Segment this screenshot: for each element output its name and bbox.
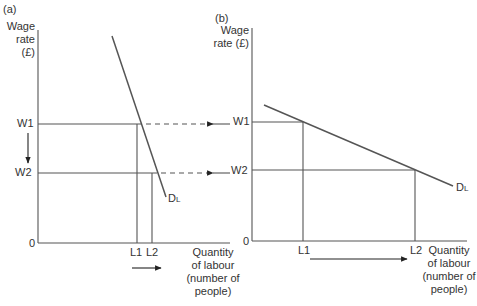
panel-a-graph xyxy=(28,30,230,268)
x-title-line2: of labour xyxy=(419,257,477,270)
y-title-line1: Wage xyxy=(205,24,249,37)
demand-sub: L xyxy=(464,184,468,193)
x-title-line3: (number of xyxy=(183,272,243,285)
panel-b-demand-label: DL xyxy=(456,181,468,195)
panel-b-y-axis-title: Wage rate (£) xyxy=(205,24,249,50)
panel-b-x-axis-title: Quantity of labour (number of people) xyxy=(419,244,477,296)
demand-sub: L xyxy=(176,195,180,204)
x-title-line3: (number of xyxy=(419,270,477,283)
demand-main: D xyxy=(168,192,176,204)
demand-main: D xyxy=(456,181,464,193)
panel-b-w2-label: W2 xyxy=(231,164,248,177)
panel-b-w1-label: W1 xyxy=(233,115,250,128)
panel-a-l1-label: L1 xyxy=(130,246,142,259)
panel-b-graph xyxy=(252,28,467,259)
panel-a-w2-label: W2 xyxy=(15,166,32,179)
panel-a-y-axis-title: Wage rate (£) xyxy=(0,20,35,59)
y-title-line2: rate (£) xyxy=(0,33,35,59)
panel-a-l2-label: L2 xyxy=(146,246,158,259)
y-title-line1: Wage xyxy=(0,20,35,33)
panel-b-label: (b) xyxy=(215,12,228,24)
panel-a-origin-label: 0 xyxy=(29,237,35,250)
x-title-line1: Quantity xyxy=(183,246,243,259)
panel-b-origin-label: 0 xyxy=(243,235,249,248)
panel-a-demand-label: DL xyxy=(168,192,180,206)
panel-b-demand-curve xyxy=(264,105,453,186)
x-title-line2: of labour xyxy=(183,259,243,272)
y-title-line2: rate (£) xyxy=(205,37,249,50)
panel-a-label: (a) xyxy=(3,3,16,15)
panel-b-l1-label: L1 xyxy=(298,244,310,257)
x-title-line4: people) xyxy=(183,285,243,298)
x-title-line1: Quantity xyxy=(419,244,477,257)
x-title-line4: people) xyxy=(419,283,477,296)
panel-a-x-axis-title: Quantity of labour (number of people) xyxy=(183,246,243,298)
panel-a-w1-label: W1 xyxy=(17,117,34,130)
